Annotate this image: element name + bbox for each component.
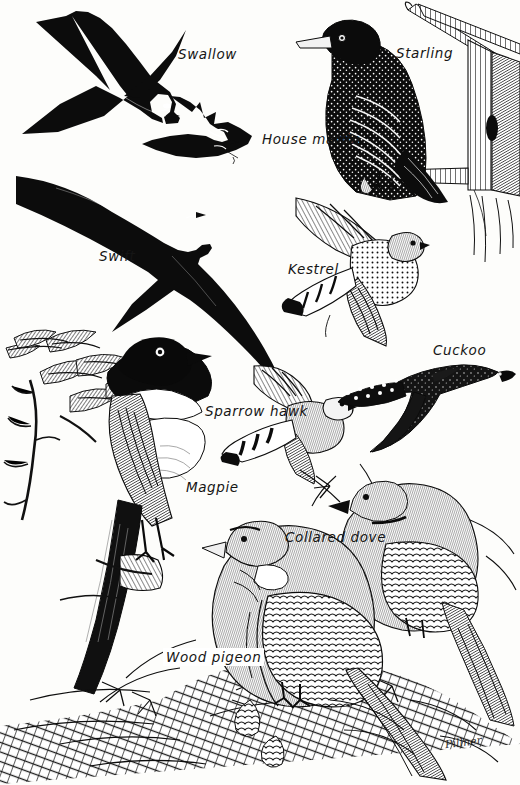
label-swallow: Swallow [178,46,237,62]
plate-artwork [0,0,520,785]
label-starling: Starling [396,45,453,61]
label-sparrowhawk: Sparrow hawk [205,403,308,419]
label-house-martin: House martin [262,131,360,147]
label-cuckoo: Cuckoo [433,342,486,358]
label-collared-dove: Collared dove [285,529,386,545]
label-swift: Swift [99,248,135,264]
label-kestrel: Kestrel [288,261,339,277]
bird-identification-plate: Swallow Starling House martin Swift Kest… [0,0,520,785]
label-magpie: Magpie [186,479,239,495]
label-wood-pigeon: Wood pigeon [163,648,264,666]
